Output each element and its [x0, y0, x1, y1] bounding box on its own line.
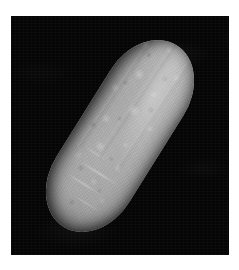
- photo-plate: [11, 16, 229, 255]
- specimen-object: [27, 22, 213, 249]
- figure-root: [0, 0, 239, 270]
- specimen-layer: [11, 16, 229, 255]
